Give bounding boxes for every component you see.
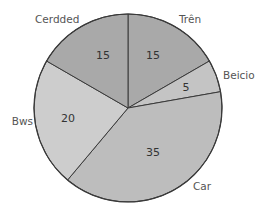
slice-value: 15 (96, 49, 110, 62)
slice-value: 35 (146, 146, 160, 159)
pie-slices (34, 14, 222, 202)
pie-chart: 155352015 TrênBeicioCarBwsCerdded (0, 0, 262, 218)
slice-value: 15 (146, 49, 160, 62)
slice-label: Beicio (223, 69, 255, 81)
slice-value: 5 (183, 81, 190, 94)
slice-label: Car (193, 180, 212, 192)
slice-value: 20 (61, 112, 75, 125)
slice-label: Cerdded (35, 13, 79, 25)
slice-label: Bws (12, 115, 33, 127)
slice-label: Trên (178, 13, 201, 25)
